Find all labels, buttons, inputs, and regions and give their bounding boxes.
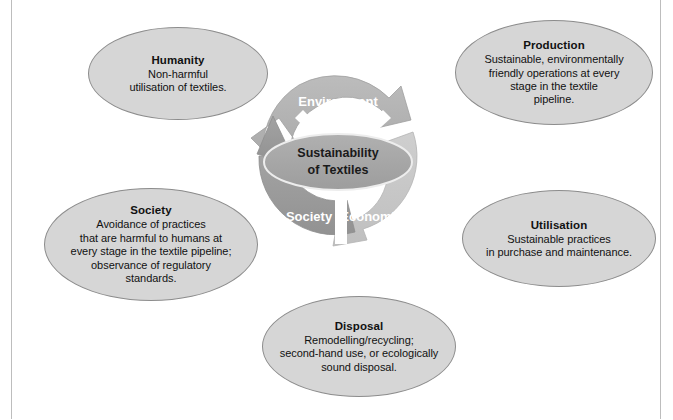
bubble-utilisation: Utilisation Sustainable practices in pur… bbox=[462, 190, 656, 287]
core-ellipse bbox=[264, 134, 412, 190]
bubble-humanity-body: Non-harmful utilisation of textiles. bbox=[129, 68, 226, 95]
bubble-disposal-body: Remodelling/recycling; second-hand use, … bbox=[280, 334, 439, 374]
bubble-production: Production Sustainable, environmentally … bbox=[455, 20, 653, 125]
bubble-humanity: Humanity Non-harmful utilisation of text… bbox=[88, 27, 268, 120]
segment-label-economics: Economics bbox=[340, 209, 409, 224]
bubble-production-body: Sustainable, environmentally friendly op… bbox=[484, 53, 623, 107]
diagram-canvas: Environment Society Economics Sustainabi… bbox=[0, 0, 673, 420]
sustainability-cycle-diagram: Environment Society Economics Sustainabi… bbox=[243, 58, 433, 278]
bubble-utilisation-body: Sustainable practices in purchase and ma… bbox=[486, 233, 632, 260]
bubble-society-body: Avoidance of practices that are harmful … bbox=[71, 218, 232, 285]
core-label-line1: Sustainability bbox=[297, 146, 378, 160]
bubble-utilisation-title: Utilisation bbox=[531, 218, 588, 232]
core-label-line2: of Textiles bbox=[308, 163, 369, 177]
bubble-disposal-title: Disposal bbox=[335, 319, 384, 333]
bubble-society: Society Avoidance of practices that are … bbox=[44, 188, 258, 301]
bubble-disposal: Disposal Remodelling/recycling; second-h… bbox=[262, 296, 456, 397]
segment-label-environment: Environment bbox=[298, 94, 378, 109]
segment-label-society: Society bbox=[286, 209, 333, 224]
bubble-society-title: Society bbox=[130, 203, 172, 217]
bubble-humanity-title: Humanity bbox=[151, 53, 204, 67]
bubble-production-title: Production bbox=[523, 38, 585, 52]
